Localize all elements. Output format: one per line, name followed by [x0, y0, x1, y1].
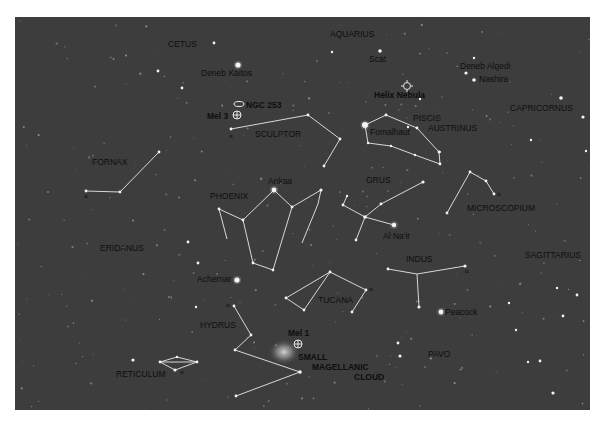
- constellation-label-sculptor[interactable]: SCULPTOR: [255, 129, 301, 139]
- faint-star: [540, 272, 542, 274]
- star: [367, 142, 369, 144]
- faint-star: [103, 143, 105, 145]
- faint-star: [170, 136, 171, 137]
- faint-star: [292, 104, 294, 106]
- object-label-smc-3[interactable]: CLOUD: [354, 372, 384, 382]
- faint-star: [583, 354, 585, 356]
- faint-star: [41, 266, 43, 268]
- faint-star: [311, 307, 312, 308]
- star: [176, 356, 178, 358]
- star-label-al-nair[interactable]: Al Na'ir: [383, 231, 410, 241]
- star-label-nashira[interactable]: Nashira: [479, 74, 509, 84]
- faint-star: [86, 243, 88, 245]
- constellation-label-eridanus[interactable]: ERIDANUS: [100, 243, 144, 253]
- alpha-marker: α: [84, 192, 88, 199]
- star: [464, 71, 467, 74]
- faint-star: [542, 318, 544, 320]
- faint-star: [406, 117, 407, 118]
- faint-star: [60, 250, 61, 251]
- faint-star: [417, 218, 419, 220]
- star-label-deneb-algedi[interactable]: Deneb Algedi: [460, 61, 511, 71]
- star: [234, 349, 237, 352]
- star: [365, 289, 368, 292]
- star: [421, 180, 424, 183]
- faint-star: [498, 281, 499, 282]
- faint-star: [556, 203, 557, 204]
- constellation-label-tucana[interactable]: TUCANA: [318, 295, 353, 305]
- star-label-peacock[interactable]: Peacock: [445, 307, 478, 317]
- star: [530, 139, 532, 141]
- constellation-label-reticulum[interactable]: RETICULUM: [116, 369, 166, 379]
- faint-star: [583, 320, 585, 322]
- faint-star: [132, 220, 134, 222]
- mel-3-cluster-icon[interactable]: [233, 111, 241, 119]
- faint-star: [461, 367, 463, 369]
- mel-1-cluster-icon[interactable]: [294, 340, 302, 348]
- star-label-scat[interactable]: Scat: [369, 54, 387, 64]
- faint-star: [481, 31, 483, 33]
- object-label-ngc-253[interactable]: NGC 253: [246, 100, 282, 110]
- star: [493, 193, 496, 196]
- faint-star: [56, 42, 58, 44]
- object-label-smc-1[interactable]: SMALL: [298, 352, 327, 362]
- faint-star: [71, 246, 73, 248]
- faint-star: [339, 25, 340, 26]
- faint-star: [316, 60, 318, 62]
- faint-star: [125, 54, 127, 56]
- object-label-helix-nebula[interactable]: Helix Nebula: [374, 90, 425, 100]
- faint-star: [339, 82, 340, 83]
- faint-star: [522, 312, 523, 313]
- constellation-label-piscis-2[interactable]: AUSTRINUS: [428, 123, 477, 133]
- star: [446, 212, 449, 215]
- star: [581, 115, 584, 118]
- faint-star: [156, 244, 158, 246]
- faint-star: [38, 401, 39, 402]
- faint-star: [47, 191, 49, 193]
- faint-star: [551, 94, 552, 95]
- faint-star: [580, 177, 582, 179]
- constellation-label-piscis-1[interactable]: PISCIS: [413, 113, 441, 123]
- star: [303, 309, 306, 312]
- faint-star: [543, 262, 545, 264]
- constellation-label-phoenix[interactable]: PHOENIX: [210, 191, 249, 201]
- faint-star: [124, 289, 125, 290]
- object-label-mel-1[interactable]: Mel 1: [288, 328, 310, 338]
- star: [157, 70, 160, 73]
- constellation-label-cetus[interactable]: CETUS: [168, 39, 197, 49]
- faint-star: [406, 331, 407, 332]
- star-label-ankaa[interactable]: Ankaa: [268, 176, 292, 186]
- star-label-fomalhaut[interactable]: Fomalhaut: [370, 127, 411, 137]
- constellation-label-aquarius[interactable]: AQUARIUS: [330, 29, 375, 39]
- star: [559, 96, 563, 100]
- star-label-deneb-kaitos[interactable]: Deneb Kaitos: [201, 68, 252, 78]
- faint-star: [471, 335, 473, 337]
- constellation-label-hydrus[interactable]: HYDRUS: [200, 320, 236, 330]
- star: [473, 57, 475, 59]
- faint-star: [138, 228, 139, 229]
- faint-star: [165, 193, 167, 195]
- faint-star: [439, 233, 440, 234]
- faint-star: [419, 53, 421, 55]
- faint-star: [202, 114, 203, 115]
- faint-star: [94, 85, 96, 87]
- faint-star: [404, 33, 406, 35]
- constellation-label-sagittarius[interactable]: SAGITTARIUS: [525, 250, 581, 260]
- faint-star: [105, 204, 106, 205]
- object-label-smc-2[interactable]: MAGELLANIC: [312, 362, 369, 372]
- faint-star: [386, 34, 387, 35]
- faint-star: [286, 383, 288, 385]
- constellation-label-capricornus[interactable]: CAPRICORNUS: [510, 103, 573, 113]
- object-label-mel-3[interactable]: Mel 3: [207, 111, 229, 121]
- faint-star: [110, 57, 112, 59]
- constellation-label-pavo[interactable]: PAVO: [428, 349, 451, 359]
- faint-star: [28, 219, 30, 221]
- faint-star: [313, 397, 315, 399]
- constellation-label-microscopium[interactable]: MICROSCOPIUM: [467, 203, 535, 213]
- star-label-achernar[interactable]: Achernar: [197, 274, 232, 284]
- constellation-label-grus[interactable]: GRUS: [366, 175, 391, 185]
- faint-star: [268, 400, 270, 402]
- faint-star: [402, 74, 403, 75]
- faint-star: [384, 104, 386, 106]
- constellation-label-indus[interactable]: INDUS: [406, 254, 433, 264]
- constellation-label-fornax[interactable]: FORNAX: [92, 157, 128, 167]
